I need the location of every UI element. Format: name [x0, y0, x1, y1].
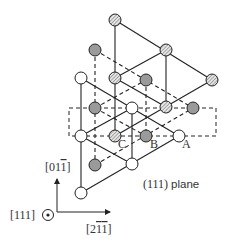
atom-layer-c — [109, 72, 121, 84]
atom-layer-c — [109, 14, 121, 26]
plane-label: (111)plane — [143, 177, 199, 191]
fcc-stacking-diagram: C B A (111)plane [011] [211] [111] — [0, 0, 227, 245]
atom-layer-b — [89, 44, 101, 56]
atom-layer-c — [206, 74, 218, 86]
atom-layer-c — [160, 44, 172, 56]
bond-layer-c — [115, 50, 166, 78]
bond-layer-b — [95, 80, 146, 108]
atom-layer-a — [126, 102, 138, 114]
lattice-atoms — [75, 14, 218, 199]
atom-layer-c — [160, 101, 172, 113]
site-label-a: A — [182, 137, 191, 151]
atom-layer-a — [126, 158, 138, 170]
atom-layer-b — [89, 102, 101, 114]
axis-label-horizontal: [211] — [86, 222, 112, 236]
atom-layer-b — [140, 74, 152, 86]
atom-layer-a — [75, 187, 87, 199]
axis-label-vertical: [011] — [45, 160, 71, 174]
axis-label-out-of-page: [111] — [10, 208, 35, 222]
atom-layer-a — [75, 130, 87, 142]
site-label-c: C — [118, 137, 126, 151]
bond-layer-a — [81, 108, 132, 136]
out-of-page-icon — [43, 210, 54, 221]
atom-layer-b — [187, 102, 199, 114]
atom-layer-a — [75, 72, 87, 84]
atom-layer-b — [89, 159, 101, 171]
site-label-b: B — [150, 137, 158, 151]
